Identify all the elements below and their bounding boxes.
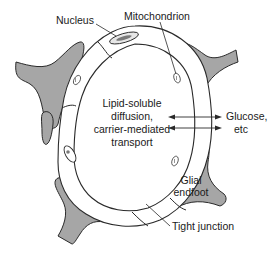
nucleus-core-bottom-left	[66, 150, 70, 154]
glial-endfoot-left-small	[42, 112, 54, 145]
diagram-canvas: Nucleus Mitochondrion Lipid-soluble diff…	[0, 0, 273, 257]
label-center-line3: carrier-mediated	[94, 123, 171, 135]
label-center-line1: Lipid-soluble	[103, 97, 162, 109]
label-center-line2: diffusion,	[111, 110, 153, 122]
label-mitochondrion: Mitochondrion	[124, 10, 190, 22]
label-glial: Glial	[180, 174, 201, 186]
label-nucleus: Nucleus	[56, 14, 94, 26]
label-endfoot: endfoot	[173, 186, 208, 198]
label-center-line4: transport	[111, 136, 153, 148]
label-glucose-etc: etc	[234, 123, 248, 135]
label-glucose: Glucose,	[226, 110, 267, 122]
label-tight-junction: Tight junction	[172, 220, 234, 232]
nucleus-leader-line	[96, 24, 116, 36]
